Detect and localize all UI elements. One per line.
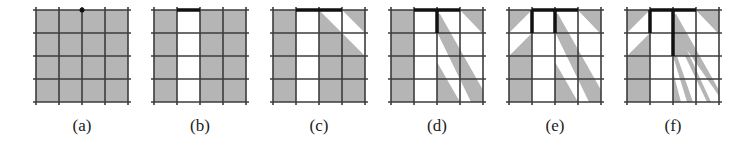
panel-label-b: (b) — [170, 116, 230, 136]
panel-label-d: (d) — [407, 116, 467, 136]
panel-label-c: (c) — [289, 116, 349, 136]
grid-e — [501, 0, 611, 110]
grid-d — [383, 0, 493, 110]
panel-label-a: (a) — [52, 116, 112, 136]
grid-b — [146, 0, 256, 110]
grid-a — [28, 0, 138, 110]
panel-label-f: (f) — [643, 116, 703, 136]
grid-c — [265, 0, 375, 110]
panel-label-e: (e) — [525, 116, 585, 136]
grid-f — [619, 0, 729, 110]
